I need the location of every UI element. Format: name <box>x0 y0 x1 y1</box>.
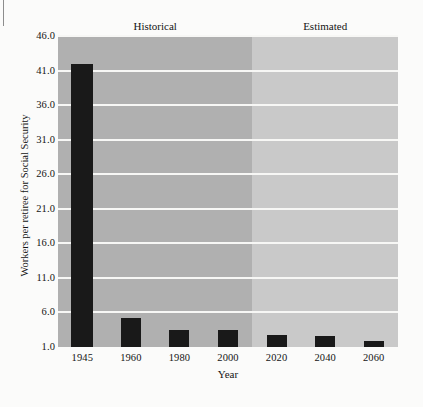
plot-area <box>58 36 398 347</box>
gridline <box>58 139 398 141</box>
x-tick-label: 2060 <box>350 352 398 363</box>
gridline <box>58 70 398 72</box>
x-axis-ticks: 1945196019802000202020402060 <box>58 352 398 366</box>
page-edge-rule <box>3 0 4 26</box>
x-tick-label: 2020 <box>253 352 301 363</box>
y-tick-label: 46.0 <box>3 30 55 41</box>
y-axis-label: Workers per retiree for Social Security <box>19 96 30 296</box>
gridline <box>58 104 398 106</box>
x-tick-label: 2040 <box>301 352 349 363</box>
bar <box>218 330 238 347</box>
bar <box>364 341 384 347</box>
y-tick-label: 1.0 <box>3 341 55 352</box>
x-tick-label: 1980 <box>155 352 203 363</box>
gridline <box>58 208 398 210</box>
gridline <box>58 277 398 279</box>
y-tick-label: 6.0 <box>3 306 55 317</box>
x-axis-label: Year <box>58 368 398 380</box>
x-tick-label: 2000 <box>204 352 252 363</box>
bar <box>71 64 93 347</box>
band-estimated <box>252 36 398 347</box>
y-tick-label: 41.0 <box>3 65 55 76</box>
gridline <box>58 173 398 175</box>
gridline <box>58 35 398 37</box>
bar <box>121 318 141 347</box>
region-label-historical: Historical <box>115 20 195 32</box>
x-tick-label: 1960 <box>107 352 155 363</box>
chart-figure: Historical Estimated 1.06.011.016.021.02… <box>0 0 423 407</box>
bar <box>169 330 189 347</box>
gridline <box>58 242 398 244</box>
bar <box>315 336 335 347</box>
x-tick-label: 1945 <box>58 352 106 363</box>
region-label-estimated: Estimated <box>285 20 365 32</box>
gridline <box>58 311 398 313</box>
bar <box>267 335 287 347</box>
